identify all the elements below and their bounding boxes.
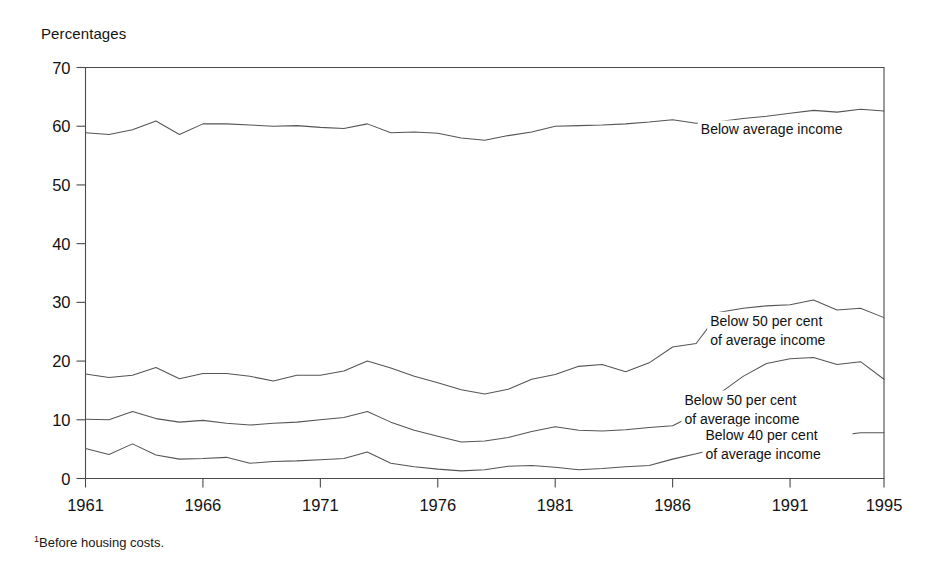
x-tick-label: 1981 xyxy=(537,496,574,514)
y-tick-label: 0 xyxy=(61,470,70,488)
x-tick-label: 1976 xyxy=(419,496,456,514)
chart-figure: Percentages 010203040506070 196119661971… xyxy=(0,0,930,565)
series-labels-group: Below average incomeBelow 50 per centof … xyxy=(681,120,857,464)
x-tick-label: 1986 xyxy=(654,496,691,514)
y-tick-label: 40 xyxy=(52,235,70,253)
series-label: Below 40 per cent xyxy=(706,427,818,443)
x-tick-label: 1995 xyxy=(866,496,903,514)
series-label: Below 50 per cent xyxy=(710,313,822,329)
footnote-text: Before housing costs. xyxy=(39,535,164,550)
x-tick-label: 1961 xyxy=(67,496,104,514)
series-label: of average income xyxy=(706,446,821,462)
y-tick-label: 20 xyxy=(52,352,70,370)
x-axis-ticks: 19611966197119761981198619911995 xyxy=(67,479,902,514)
series-label: Below average income xyxy=(701,121,843,137)
line-chart-plot: 010203040506070 196119661971197619811986… xyxy=(0,0,930,565)
x-tick-label: 1966 xyxy=(185,496,222,514)
series-label: of average income xyxy=(684,411,799,427)
y-tick-label: 30 xyxy=(52,293,70,311)
series-label: of average income xyxy=(710,332,825,348)
x-tick-label: 1971 xyxy=(302,496,339,514)
x-tick-label: 1991 xyxy=(772,496,809,514)
footnote: 1Before housing costs. xyxy=(34,534,164,550)
y-tick-label: 70 xyxy=(52,59,70,77)
y-tick-label: 10 xyxy=(52,411,70,429)
series-label: Below 50 per cent xyxy=(684,392,796,408)
y-tick-label: 50 xyxy=(52,176,70,194)
y-axis-ticks: 010203040506070 xyxy=(52,59,85,488)
y-tick-label: 60 xyxy=(52,117,70,135)
